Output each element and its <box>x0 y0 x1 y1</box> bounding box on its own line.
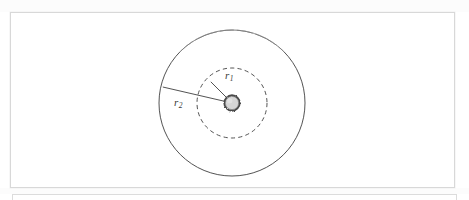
scan-margin-top <box>0 0 469 12</box>
figure-panel <box>10 12 455 188</box>
next-figure-panel <box>12 194 457 200</box>
page-canvas: r1 r2 <box>0 0 469 200</box>
